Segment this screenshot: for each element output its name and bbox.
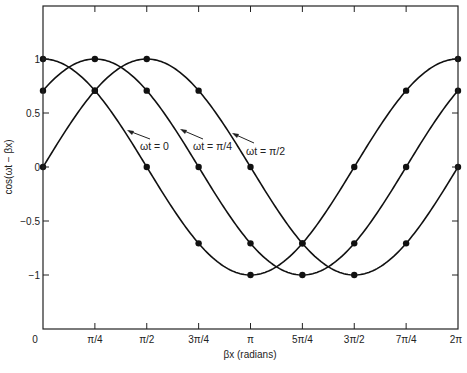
data-point (92, 56, 98, 62)
x-axis-label: βx (radians) (224, 349, 277, 360)
x-tick-label: 3π/2 (344, 334, 365, 345)
annotation-wt-pi2: ωt = π/2 (232, 133, 285, 157)
annotation-label: ωt = π/2 (246, 145, 285, 157)
data-point (351, 164, 357, 170)
x-tick-label: 3π/4 (188, 334, 209, 345)
x-tick-label: 5π/4 (292, 334, 313, 345)
data-point (195, 240, 201, 246)
data-point (351, 240, 357, 246)
x-tick-label: 0 (32, 334, 38, 345)
data-point (403, 240, 409, 246)
x-tick-label: π/2 (139, 334, 155, 345)
data-point (195, 164, 201, 170)
data-point (351, 272, 357, 278)
y-tick-labels: 10.50−0.5−1 (20, 54, 40, 281)
y-tick-label: 0.5 (26, 108, 40, 119)
y-tick-label: 1 (34, 54, 40, 65)
data-point (403, 87, 409, 93)
data-point (247, 240, 253, 246)
data-points (40, 56, 461, 278)
y-tick-label: −0.5 (20, 216, 40, 227)
annotation-label: ωt = 0 (140, 140, 169, 152)
data-point (247, 272, 253, 278)
x-tick-labels: 0π/4π/23π/4π5π/43π/27π/42π (32, 334, 462, 345)
y-axis-label: cos(ωt − βx) (3, 140, 14, 195)
x-tick-label: π (247, 334, 254, 345)
data-point (144, 87, 150, 93)
data-point (195, 87, 201, 93)
x-tick-label: 7π/4 (396, 334, 417, 345)
cosine-wave-chart: 0π/4π/23π/4π5π/43π/27π/42π 10.50−0.5−1 β… (0, 0, 467, 373)
x-tick-label: π/4 (87, 334, 103, 345)
annotation-label: ωt = π/4 (193, 140, 232, 152)
x-tick-label: 2π (450, 334, 463, 345)
data-point (144, 56, 150, 62)
data-point (299, 240, 305, 246)
data-point (144, 164, 150, 170)
annotation-wt-0: ωt = 0 (127, 130, 169, 152)
data-point (247, 164, 253, 170)
data-point (299, 272, 305, 278)
y-tick-label: −1 (29, 270, 41, 281)
data-point (403, 164, 409, 170)
y-tick-label: 0 (34, 162, 40, 173)
data-point (92, 87, 98, 93)
